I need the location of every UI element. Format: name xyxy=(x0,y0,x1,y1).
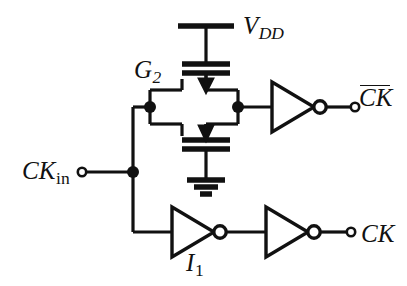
label-ck-in-base: CK xyxy=(22,157,55,184)
junction-dot-gate-right xyxy=(232,101,244,113)
output-terminal-ckbar xyxy=(351,103,359,111)
label-i1: I1 xyxy=(186,250,204,279)
label-i1-sub: 1 xyxy=(195,260,204,280)
label-ck-base: CK xyxy=(361,220,394,247)
label-g2: G2 xyxy=(134,57,161,86)
schematic-canvas xyxy=(0,0,407,286)
label-ck-bar: CK xyxy=(359,84,392,110)
output-terminal-ck xyxy=(347,228,355,236)
inverter-top-bubble xyxy=(314,101,326,113)
inverter-i1-bubble xyxy=(214,226,226,238)
junction-dot-ckin xyxy=(127,166,139,178)
label-vdd: VDD xyxy=(243,13,284,42)
circuit-diagram: VDD G2 CK CKin I1 CK xyxy=(0,0,407,286)
inverter-bottom-second-bubble xyxy=(308,226,320,238)
label-ck-bar-base: CK xyxy=(359,84,392,110)
label-vdd-base: V xyxy=(243,12,258,39)
label-g2-sub: 2 xyxy=(152,67,161,87)
label-ck: CK xyxy=(361,221,394,246)
input-terminal-ckin xyxy=(78,168,86,176)
label-i1-base: I xyxy=(186,249,194,276)
inverter-top-triangle xyxy=(272,82,314,132)
junction-dot-gate-left xyxy=(144,101,156,113)
label-g2-base: G xyxy=(134,56,152,83)
label-ck-in-sub: in xyxy=(56,168,70,188)
inverter-bottom-second-triangle xyxy=(266,207,308,257)
label-ck-in: CKin xyxy=(22,158,70,187)
label-vdd-sub: DD xyxy=(259,23,284,43)
